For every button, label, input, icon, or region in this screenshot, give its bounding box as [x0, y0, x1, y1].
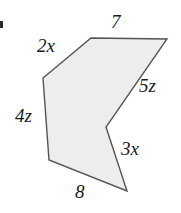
- side-label-right: 5z: [139, 76, 156, 95]
- page-edge-artifact: [0, 21, 3, 28]
- side-label-upper-left: 2x: [37, 36, 55, 55]
- side-label-bottom: 8: [75, 182, 85, 201]
- side-label-top: 7: [111, 12, 121, 31]
- concave-hexagon-shape: [43, 38, 167, 191]
- side-label-lower-right: 3x: [121, 139, 139, 158]
- polygon-figure: 7 2x 4z 5z 3x 8: [0, 0, 181, 213]
- side-label-left: 4z: [15, 106, 32, 125]
